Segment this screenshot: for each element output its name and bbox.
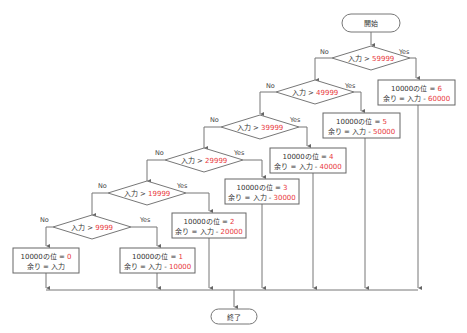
svg-text:余り = 入力 - 10000: 余り = 入力 - 10000 [124,262,192,271]
svg-text:余り = 入力 - 20000: 余り = 入力 - 20000 [175,227,243,236]
svg-text:No: No [98,182,107,190]
svg-text:入力 > 49999: 入力 > 49999 [292,88,339,97]
svg-text:入力 > 29999: 入力 > 29999 [181,156,228,165]
svg-text:Yes: Yes [344,82,356,90]
svg-text:No: No [155,149,164,157]
svg-text:Yes: Yes [139,216,151,224]
svg-text:Yes: Yes [289,116,301,124]
svg-text:Yes: Yes [176,182,188,190]
svg-text:10000の位 = 0: 10000の位 = 0 [20,252,71,261]
svg-text:入力 > 9999: 入力 > 9999 [71,223,113,232]
svg-text:10000の位 = 2: 10000の位 = 2 [183,217,234,226]
svg-text:入力 > 19999: 入力 > 19999 [124,189,171,198]
svg-text:No: No [40,216,49,224]
end-label: 終了 [227,313,241,322]
svg-text:Yes: Yes [233,149,245,157]
svg-text:10000の位 = 4: 10000の位 = 4 [282,152,334,161]
svg-text:余り = 入力 - 60000: 余り = 入力 - 60000 [383,94,451,103]
svg-text:10000の位 = 6: 10000の位 = 6 [391,84,443,93]
svg-text:余り = 入力 - 40000: 余り = 入力 - 40000 [274,162,342,171]
svg-text:余り = 入力: 余り = 入力 [27,262,65,271]
svg-text:10000の位 = 1: 10000の位 = 1 [132,252,183,261]
flowchart: 開始 入力 > 59999 入力 > 49999 入力 > 39999 入力 >… [0,0,467,333]
svg-text:入力 > 59999: 入力 > 59999 [348,54,395,63]
start-terminal: 開始 [342,14,400,32]
svg-text:No: No [210,116,219,124]
svg-text:余り = 入力 - 50000: 余り = 入力 - 50000 [328,127,396,136]
svg-text:10000の位 = 5: 10000の位 = 5 [336,117,387,126]
svg-text:No: No [320,48,329,56]
start-label: 開始 [364,19,378,28]
svg-text:10000の位 = 3: 10000の位 = 3 [236,183,287,192]
svg-text:Yes: Yes [398,48,410,56]
svg-text:余り = 入力 - 30000: 余り = 入力 - 30000 [228,193,296,202]
svg-text:入力 > 39999: 入力 > 39999 [237,123,284,132]
end-terminal: 終了 [211,309,257,324]
svg-text:No: No [266,82,275,90]
